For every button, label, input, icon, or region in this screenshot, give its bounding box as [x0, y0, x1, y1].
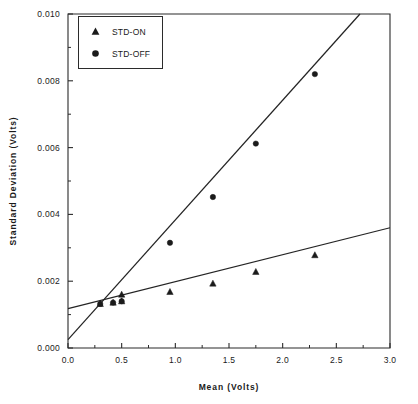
y-tick-label: 0.002	[37, 276, 60, 286]
data-point-marker	[167, 240, 172, 245]
data-point-marker	[119, 299, 124, 304]
triangle-marker-icon	[88, 27, 102, 36]
x-tick-label: 1.0	[169, 355, 182, 365]
x-tick-label: 3.0	[384, 355, 397, 365]
plot-area: 0.00.51.01.52.02.53.00.0000.0020.0040.00…	[0, 0, 418, 404]
x-tick-label: 2.0	[276, 355, 289, 365]
data-point-marker	[253, 268, 259, 274]
legend-item-std-on: STD-ON	[88, 24, 150, 39]
x-tick-label: 0.0	[62, 355, 75, 365]
data-point-marker	[110, 300, 115, 305]
data-point-marker	[210, 194, 215, 199]
x-tick-label: 0.5	[115, 355, 128, 365]
x-tick-label: 2.5	[330, 355, 343, 365]
data-point-marker	[312, 252, 318, 258]
data-point-marker	[312, 71, 317, 76]
legend-item-std-off: STD-OFF	[88, 46, 150, 61]
y-tick-label: 0.006	[37, 143, 60, 153]
y-tick-label: 0.004	[37, 209, 60, 219]
chart-container: 0.00.51.01.52.02.53.00.0000.0020.0040.00…	[0, 0, 418, 404]
chart-legend: STD-ON STD-OFF	[78, 16, 163, 69]
data-point-marker	[167, 288, 173, 294]
data-point-marker	[253, 141, 258, 146]
series-fit-line	[68, 228, 390, 309]
legend-label-std-on: STD-ON	[112, 27, 146, 37]
data-point-marker	[98, 301, 103, 306]
y-axis-title: Standard Deviation (Volts)	[8, 116, 18, 245]
x-axis-title: Mean (Volts)	[199, 382, 260, 392]
circle-marker-icon	[88, 49, 102, 58]
legend-label-std-off: STD-OFF	[112, 49, 150, 59]
data-point-marker	[210, 280, 216, 286]
x-tick-label: 1.5	[223, 355, 236, 365]
y-tick-label: 0.000	[37, 343, 60, 353]
y-tick-label: 0.010	[37, 9, 60, 19]
y-tick-label: 0.008	[37, 76, 60, 86]
